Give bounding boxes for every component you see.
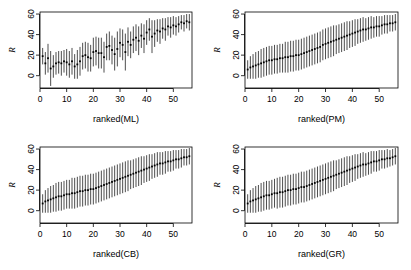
y-axis: 0204060 <box>231 144 245 213</box>
x-tick-label: 0 <box>38 229 43 239</box>
y-tick-label: 20 <box>26 50 36 60</box>
x-tick-label: 50 <box>374 94 384 104</box>
panel-gr: 010203040500204060ranked(GR)R <box>205 135 411 270</box>
y-tick-label: 60 <box>26 9 36 19</box>
plot-gr: 010203040500204060ranked(GR)R <box>205 135 411 270</box>
x-tick-label: 30 <box>115 229 125 239</box>
x-tick-label: 10 <box>267 94 277 104</box>
y-axis: 0204060 <box>26 144 40 213</box>
y-tick-label: 0 <box>26 208 36 213</box>
x-tick-label: 10 <box>267 229 277 239</box>
x-tick-label: 0 <box>243 229 248 239</box>
y-tick-label: 60 <box>231 144 241 154</box>
error-bars <box>43 148 190 213</box>
y-tick-label: 0 <box>231 73 241 78</box>
plot-cb: 010203040500204060ranked(CB)R <box>0 135 205 270</box>
x-tick-label: 40 <box>348 94 358 104</box>
panel-pm: 010203040500204060ranked(PM)R <box>205 0 411 135</box>
plot-frame <box>245 147 398 223</box>
x-tick-label: 50 <box>374 229 384 239</box>
plot-pm: 010203040500204060ranked(PM)R <box>205 0 411 135</box>
x-tick-label: 0 <box>243 94 248 104</box>
x-axis: 01020304050 <box>243 224 385 240</box>
x-tick-label: 20 <box>89 229 99 239</box>
x-tick-label: 30 <box>115 94 125 104</box>
x-tick-label: 10 <box>62 94 72 104</box>
y-axis-label: R <box>212 47 222 54</box>
plot-frame <box>40 12 192 88</box>
y-axis-label: R <box>7 47 17 54</box>
x-axis-label: ranked(PM) <box>298 114 345 124</box>
x-tick-label: 40 <box>142 94 152 104</box>
y-axis: 0204060 <box>231 9 245 78</box>
y-tick-label: 40 <box>26 165 36 175</box>
plot-frame <box>40 147 192 223</box>
x-axis: 01020304050 <box>38 224 179 240</box>
x-tick-label: 50 <box>169 94 179 104</box>
panel-cb: 010203040500204060ranked(CB)R <box>0 135 205 270</box>
x-axis: 01020304050 <box>38 89 179 105</box>
y-tick-label: 60 <box>26 144 36 154</box>
y-tick-label: 20 <box>26 185 36 195</box>
x-tick-label: 40 <box>348 229 358 239</box>
y-tick-label: 40 <box>231 165 241 175</box>
x-tick-label: 40 <box>142 229 152 239</box>
y-tick-label: 20 <box>231 50 241 60</box>
panel-ml: 010203040500204060ranked(ML)R <box>0 0 205 135</box>
x-tick-label: 20 <box>89 94 99 104</box>
figure-grid: 010203040500204060ranked(ML)R 0102030405… <box>0 0 411 270</box>
y-tick-label: 40 <box>231 30 241 40</box>
x-tick-label: 20 <box>294 229 304 239</box>
y-axis: 0204060 <box>26 9 40 78</box>
y-tick-label: 0 <box>231 208 241 213</box>
plot-frame <box>245 12 398 88</box>
y-tick-label: 20 <box>231 185 241 195</box>
x-axis: 01020304050 <box>243 89 385 105</box>
error-bars <box>43 14 190 86</box>
y-tick-label: 60 <box>231 9 241 19</box>
x-axis-label: ranked(ML) <box>93 114 139 124</box>
x-tick-label: 0 <box>38 94 43 104</box>
x-axis-label: ranked(GR) <box>298 249 345 259</box>
x-tick-label: 20 <box>294 94 304 104</box>
y-tick-label: 0 <box>26 73 36 78</box>
x-tick-label: 50 <box>169 229 179 239</box>
y-axis-label: R <box>212 182 222 189</box>
y-tick-label: 40 <box>26 30 36 40</box>
error-bars <box>248 14 396 79</box>
x-axis-label: ranked(CB) <box>93 249 139 259</box>
error-bars <box>248 148 396 213</box>
y-axis-label: R <box>7 182 17 189</box>
plot-ml: 010203040500204060ranked(ML)R <box>0 0 205 135</box>
x-tick-label: 30 <box>321 229 331 239</box>
x-tick-label: 10 <box>62 229 72 239</box>
x-tick-label: 30 <box>321 94 331 104</box>
